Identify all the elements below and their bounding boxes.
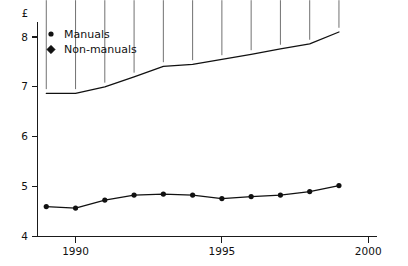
x-tick-label: 1995 bbox=[209, 245, 236, 257]
chart-legend: ManualsNon-manuals bbox=[47, 28, 137, 57]
legend-marker-diamond bbox=[47, 45, 55, 53]
chart-canvas: 45678 £ 199019952000 ManualsNon-manuals bbox=[0, 0, 408, 266]
x-tick-group: 199019952000 bbox=[62, 237, 381, 258]
data-point-dot bbox=[161, 192, 166, 197]
x-tick-label: 1990 bbox=[62, 245, 89, 257]
line-chart: 45678 £ 199019952000 ManualsNon-manuals bbox=[0, 0, 408, 266]
y-tick-label: 5 bbox=[21, 180, 28, 192]
y-axis-title: £ bbox=[22, 8, 28, 19]
y-tick-group: 45678 bbox=[21, 31, 37, 243]
y-tick-label: 8 bbox=[21, 31, 28, 43]
data-point-dot bbox=[190, 193, 195, 198]
data-point-dot bbox=[219, 196, 224, 201]
y-tick-label: 6 bbox=[21, 130, 28, 142]
x-axis: 199019952000 bbox=[38, 237, 382, 258]
data-point-dot bbox=[44, 204, 49, 209]
legend-label: Manuals bbox=[64, 28, 110, 41]
y-axis: 45678 £ bbox=[21, 8, 37, 242]
data-point-dot bbox=[102, 197, 107, 202]
y-tick-label: 7 bbox=[21, 80, 28, 92]
legend-marker-dot bbox=[48, 31, 53, 36]
x-tick-label: 2000 bbox=[355, 245, 382, 257]
data-point-dot bbox=[131, 193, 136, 198]
y-tick-label: 4 bbox=[21, 230, 28, 242]
legend-label: Non-manuals bbox=[64, 43, 137, 56]
data-point-dot bbox=[307, 189, 312, 194]
data-point-dot bbox=[336, 183, 341, 188]
data-point-dot bbox=[249, 194, 254, 199]
data-point-dot bbox=[73, 205, 78, 210]
series-manuals bbox=[44, 183, 342, 211]
data-point-dot bbox=[278, 193, 283, 198]
